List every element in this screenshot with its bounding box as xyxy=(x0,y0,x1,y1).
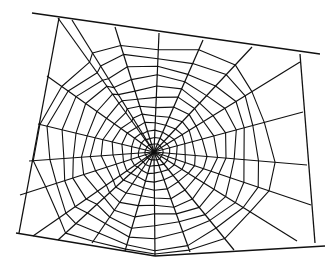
frame-thread xyxy=(32,13,320,54)
radial-spoke xyxy=(92,152,154,243)
spider-web-drawing xyxy=(0,0,336,266)
spider-web-illustration xyxy=(0,0,336,266)
radial-spoke xyxy=(154,33,159,152)
radial-spoke xyxy=(72,20,154,152)
radial-spoke xyxy=(154,112,303,152)
radial-spoke xyxy=(154,152,311,205)
radial-spoke xyxy=(20,152,154,195)
radial-spoke xyxy=(125,152,154,251)
radial-spoke xyxy=(154,152,155,256)
frame-thread xyxy=(19,18,59,233)
frame-thread xyxy=(300,54,315,243)
frame-thread xyxy=(16,233,155,256)
web-radial-spokes xyxy=(20,18,311,256)
radial-spoke xyxy=(154,40,203,152)
